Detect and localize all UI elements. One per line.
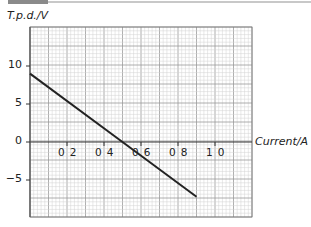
graph-paper-chart xyxy=(0,0,311,227)
x-tick-label: 1 0 xyxy=(206,146,226,158)
x-tick-label: 0 4 xyxy=(95,146,115,158)
x-tick-label: 0 6 xyxy=(132,146,152,158)
y-tick-label: 0 xyxy=(2,134,22,147)
y-tick-label: 10 xyxy=(2,58,22,71)
y-tick-label: −5 xyxy=(2,172,22,185)
data-line xyxy=(30,74,197,197)
x-tick-label: 0 2 xyxy=(58,146,78,158)
x-tick-label: 0 8 xyxy=(169,146,189,158)
y-tick-label: 5 xyxy=(2,96,22,109)
